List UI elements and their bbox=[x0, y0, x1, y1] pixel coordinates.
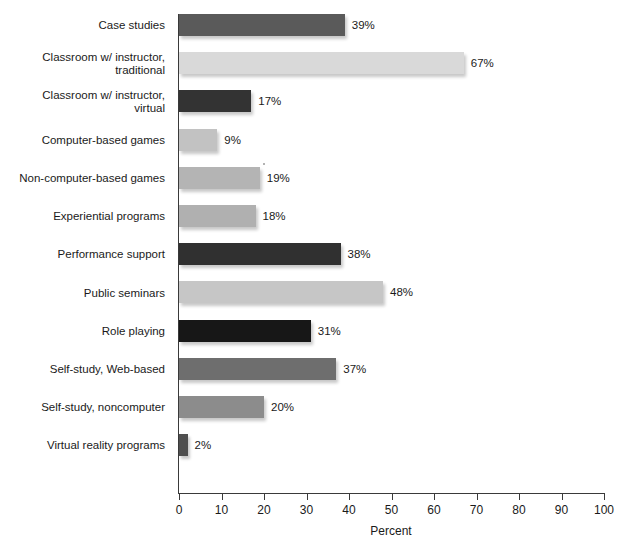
bar-value-label: 67% bbox=[471, 52, 494, 74]
x-axis-tick bbox=[519, 493, 520, 500]
x-axis-tick bbox=[222, 493, 223, 500]
bar-value-label: 19% bbox=[267, 167, 290, 189]
x-axis-tick-label: 60 bbox=[427, 503, 440, 517]
bar-value-label: 9% bbox=[224, 129, 241, 151]
category-label: Self-study, noncomputer bbox=[0, 401, 165, 415]
category-label: Case studies bbox=[0, 19, 165, 33]
category-label: Experiential programs bbox=[0, 210, 165, 224]
bar-value-label: 38% bbox=[348, 243, 371, 265]
category-label: Self-study, Web-based bbox=[0, 363, 165, 377]
bar-row: Case studies39% bbox=[0, 14, 620, 52]
x-axis-title: Percent bbox=[178, 524, 604, 538]
bar bbox=[179, 90, 251, 112]
bar bbox=[179, 434, 188, 456]
x-axis-tick bbox=[477, 493, 478, 500]
x-axis-tick-label: 20 bbox=[257, 503, 270, 517]
category-label: Public seminars bbox=[0, 287, 165, 301]
category-label: Non-computer-based games bbox=[0, 172, 165, 186]
horizontal-bar-chart: Case studies39%Classroom w/ instructor, … bbox=[0, 0, 620, 545]
bar-value-label: 17% bbox=[258, 90, 281, 112]
x-axis-tick-label: 10 bbox=[215, 503, 228, 517]
bar-value-label: 31% bbox=[318, 320, 341, 342]
category-label: Computer-based games bbox=[0, 134, 165, 148]
category-label: Performance support bbox=[0, 248, 165, 262]
bar-row: Experiential programs18% bbox=[0, 205, 620, 243]
x-axis-tick-label: 80 bbox=[512, 503, 525, 517]
bar bbox=[179, 320, 311, 342]
bar-row: Performance support38% bbox=[0, 243, 620, 281]
x-axis-tick-label: 40 bbox=[342, 503, 355, 517]
bar-row: Computer-based games9% bbox=[0, 129, 620, 167]
bar bbox=[179, 52, 464, 74]
x-axis-tick bbox=[264, 493, 265, 500]
bar bbox=[179, 358, 336, 380]
x-axis-tick bbox=[307, 493, 308, 500]
bar-value-label: 18% bbox=[263, 205, 286, 227]
bar bbox=[179, 205, 256, 227]
category-label: Classroom w/ instructor, virtual bbox=[0, 89, 165, 116]
x-axis-tick-label: 30 bbox=[300, 503, 313, 517]
x-axis-tick-label: 100 bbox=[594, 503, 614, 517]
category-label: Classroom w/ instructor, traditional bbox=[0, 51, 165, 78]
x-axis-tick bbox=[392, 493, 393, 500]
x-axis-tick bbox=[349, 493, 350, 500]
x-axis-tick bbox=[434, 493, 435, 500]
x-axis-tick-label: 70 bbox=[470, 503, 483, 517]
bar-row: Role playing31% bbox=[0, 320, 620, 358]
bar bbox=[179, 167, 260, 189]
bar-value-label: 48% bbox=[390, 281, 413, 303]
bar-value-label: 37% bbox=[343, 358, 366, 380]
bar-value-label: 20% bbox=[271, 396, 294, 418]
category-label: Virtual reality programs bbox=[0, 439, 165, 453]
bar-value-label: 39% bbox=[352, 14, 375, 36]
bar-row: Virtual reality programs2% bbox=[0, 434, 620, 472]
x-axis-tick-label: 0 bbox=[176, 503, 183, 517]
bar-row: Public seminars48% bbox=[0, 281, 620, 319]
x-axis-tick-label: 90 bbox=[555, 503, 568, 517]
x-axis-tick-label: 50 bbox=[385, 503, 398, 517]
bar-row: Self-study, noncomputer20% bbox=[0, 396, 620, 434]
bar-row: Non-computer-based games19% bbox=[0, 167, 620, 205]
bar-row: Classroom w/ instructor, traditional67% bbox=[0, 52, 620, 90]
bar-row: Classroom w/ instructor, virtual17% bbox=[0, 90, 620, 128]
bar-value-label: 2% bbox=[195, 434, 212, 456]
bar bbox=[179, 243, 341, 265]
x-axis-tick bbox=[562, 493, 563, 500]
x-axis-tick bbox=[604, 493, 605, 500]
scan-artifact-speck bbox=[263, 163, 265, 165]
bar bbox=[179, 396, 264, 418]
bar bbox=[179, 281, 383, 303]
x-axis-tick bbox=[179, 493, 180, 500]
bar bbox=[179, 129, 217, 151]
category-label: Role playing bbox=[0, 325, 165, 339]
bar-row: Self-study, Web-based37% bbox=[0, 358, 620, 396]
bar bbox=[179, 14, 345, 36]
